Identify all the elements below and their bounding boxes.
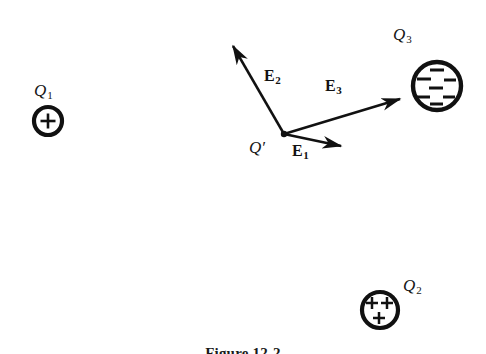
- vector-label-e3: E3: [325, 78, 341, 94]
- charge-label-q1: Q1: [34, 82, 52, 99]
- vector-label-e2: E2: [264, 68, 280, 84]
- charge-label-q2: Q2: [403, 277, 421, 294]
- figure-container: Q1 Q3 Q2 Q′ E1 E2 E3 Figure 12-2: [0, 0, 486, 354]
- charge-q2-glyph: [362, 292, 398, 328]
- vector-e2-arrow: [233, 46, 284, 134]
- test-charge-label: Q′: [249, 139, 265, 156]
- figure-caption: Figure 12-2: [0, 345, 486, 354]
- charge-label-q3: Q3: [393, 26, 411, 43]
- charge-q3-glyph: [413, 62, 461, 110]
- charge-q1-glyph: [34, 107, 62, 135]
- field-vector-diagram: [0, 0, 486, 354]
- vector-label-e1: E1: [292, 143, 308, 159]
- vector-e3-arrow: [284, 99, 400, 134]
- test-charge-point: [281, 131, 287, 137]
